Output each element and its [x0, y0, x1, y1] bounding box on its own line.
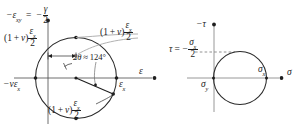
strain-horizontal-axis-label: ε	[139, 67, 143, 77]
stress-sigma-y-label: σy	[201, 80, 208, 91]
strain-radius-label-lower: (1 + v)εx2	[48, 100, 81, 121]
strain-radius-label-upper-right: (1 + v)εx2	[100, 22, 133, 43]
strain-vertical-axis-label: −εxy = −γ2	[6, 6, 49, 26]
stress-horizontal-axis-label: σ	[287, 68, 292, 78]
strain-right-axis-label: εx	[119, 80, 126, 91]
stress-diagram-graphic	[165, 0, 305, 133]
strain-center-offset-dimension	[48, 53, 76, 60]
mohr-circle-strain-figure: −εxy = −γ2 (1 + v)εx2 (1 + v)εx2 2θ ≈ 12…	[0, 0, 165, 133]
strain-left-intercept-point	[34, 76, 38, 80]
strain-angle-arc	[65, 64, 73, 67]
stress-vertical-axis-label: −τ	[196, 20, 206, 30]
strain-leader-angle	[94, 62, 96, 84]
stress-tau-value-label: τ=−σx2	[169, 39, 198, 60]
stress-sigma-x-label: σx	[258, 65, 265, 76]
strain-left-axis-label: −vεx	[3, 80, 20, 91]
mohr-circle-stress-figure: −τ τ=−σx2 σy σx σ	[165, 0, 305, 133]
strain-angle-tick	[64, 63, 67, 70]
stress-sigma-y-point	[212, 77, 215, 80]
strain-right-intercept-point	[115, 76, 119, 80]
strain-radius-label-upper-left: (1 + v)εx2	[4, 28, 37, 49]
mohr-circle-figure-page: −εxy = −γ2 (1 + v)εx2 (1 + v)εx2 2θ ≈ 12…	[0, 0, 305, 133]
strain-angle-annotation: 2θ ≈ 124°	[73, 53, 106, 62]
stress-sigma-x-point	[265, 77, 268, 80]
